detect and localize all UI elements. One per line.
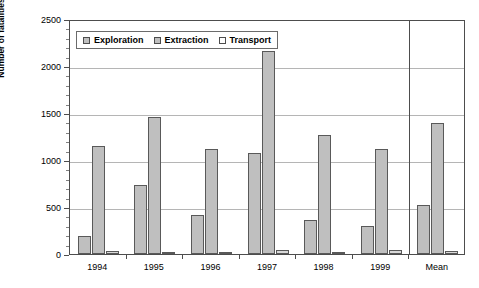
bar-transport-1998: [332, 252, 345, 254]
legend-item-extraction: Extraction: [154, 35, 209, 45]
plot-area: [69, 20, 465, 255]
bar-exploration-1995: [134, 185, 147, 254]
x-tick-mark: [182, 255, 183, 259]
bar-transport-1996: [219, 252, 232, 254]
bar-transport-Mean: [445, 251, 458, 254]
x-tick-label: Mean: [407, 262, 467, 272]
legend-label: Transport: [230, 35, 272, 45]
bar-extraction-1995: [148, 117, 161, 254]
bar-extraction-1998: [318, 135, 331, 254]
y-tick-mark: [64, 255, 69, 256]
bar-exploration-1998: [304, 220, 317, 254]
x-tick-label: 1999: [350, 262, 410, 272]
legend-swatch-icon: [219, 37, 226, 44]
y-tick-label: 500: [27, 203, 61, 213]
bar-exploration-1994: [78, 236, 91, 254]
x-tick-mark: [352, 255, 353, 259]
legend-label: Extraction: [165, 35, 209, 45]
legend-item-transport: Transport: [219, 35, 272, 45]
bar-exploration-Mean: [417, 205, 430, 254]
chart-legend: ExplorationExtractionTransport: [76, 31, 278, 49]
y-tick-label: 2500: [27, 15, 61, 25]
y-tick-label: 0: [27, 250, 61, 260]
bar-transport-1995: [162, 252, 175, 254]
y-axis-title: Number of fatalities: [0, 0, 6, 108]
bar-exploration-1997: [248, 153, 261, 254]
mean-separator-line: [409, 21, 410, 254]
y-tick-label: 2000: [27, 62, 61, 72]
legend-swatch-icon: [154, 37, 161, 44]
x-tick-label: 1998: [294, 262, 354, 272]
y-tick-label: 1000: [27, 156, 61, 166]
bar-exploration-1999: [361, 226, 374, 254]
legend-swatch-icon: [83, 37, 90, 44]
x-tick-mark: [408, 255, 409, 259]
x-tick-mark: [295, 255, 296, 259]
bar-transport-1994: [106, 251, 119, 254]
x-tick-mark: [239, 255, 240, 259]
bar-extraction-1994: [92, 146, 105, 254]
bar-extraction-1996: [205, 149, 218, 254]
bar-transport-1999: [389, 250, 402, 254]
fatalities-bar-chart: Number of fatalities 0500100015002000250…: [0, 0, 479, 288]
bar-exploration-1996: [191, 215, 204, 254]
legend-label: Exploration: [94, 35, 144, 45]
x-tick-label: 1995: [124, 262, 184, 272]
x-tick-mark: [126, 255, 127, 259]
y-tick-label: 1500: [27, 109, 61, 119]
bar-extraction-Mean: [431, 123, 444, 254]
bar-transport-1997: [276, 250, 289, 254]
x-tick-label: 1997: [237, 262, 297, 272]
x-tick-label: 1994: [67, 262, 127, 272]
bar-extraction-1997: [262, 51, 275, 255]
legend-item-exploration: Exploration: [83, 35, 144, 45]
bar-extraction-1999: [375, 149, 388, 254]
x-tick-label: 1996: [180, 262, 240, 272]
